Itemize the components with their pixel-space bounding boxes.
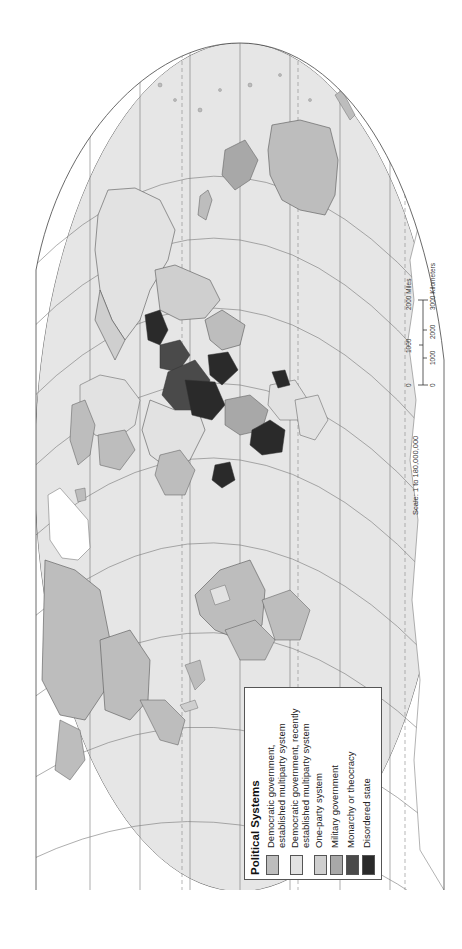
legend-label: Democratic government, recently establis…	[289, 709, 311, 848]
map-scale: Scale: 1 to 180,000,000 0 1000 2000 Mile…	[395, 255, 445, 515]
scale-miles-0: 0	[405, 383, 412, 387]
legend-label: One-party system	[313, 773, 324, 848]
scale-miles-2000: 2000 Miles	[405, 279, 412, 310]
legend-item-one-party: One-party system	[313, 694, 327, 875]
legend-label: Democratic government, established multi…	[265, 723, 287, 848]
legend-title: Political Systems	[249, 694, 262, 875]
swatch-democratic-recent	[290, 855, 303, 875]
scale-km-3000: 3000 Kilometers	[429, 263, 436, 310]
legend-item-democratic-established: Democratic government, established multi…	[265, 694, 287, 875]
world-political-map	[0, 0, 462, 949]
scale-km-2000: 2000	[429, 325, 436, 339]
scale-km-1000: 1000	[429, 351, 436, 365]
legend-item-military: Military government	[329, 694, 343, 875]
legend: Political Systems Democratic government,…	[244, 687, 382, 880]
scale-km-0: 0	[429, 383, 436, 387]
legend-label: Monarchy or theocracy	[345, 751, 356, 848]
legend-item-democratic-recent: Democratic government, recently establis…	[289, 694, 311, 875]
legend-item-disordered: Disordered state	[361, 694, 375, 875]
scale-miles-1000: 1000	[405, 339, 412, 353]
swatch-one-party	[314, 855, 327, 875]
swatch-democratic-established	[266, 855, 279, 875]
legend-label: Disordered state	[361, 778, 372, 848]
swatch-monarchy	[346, 855, 359, 875]
scale-ratio: Scale: 1 to 180,000,000	[411, 436, 420, 515]
swatch-disordered	[362, 855, 375, 875]
legend-item-monarchy: Monarchy or theocracy	[345, 694, 359, 875]
legend-label: Military government	[329, 765, 340, 848]
swatch-military	[330, 855, 343, 875]
